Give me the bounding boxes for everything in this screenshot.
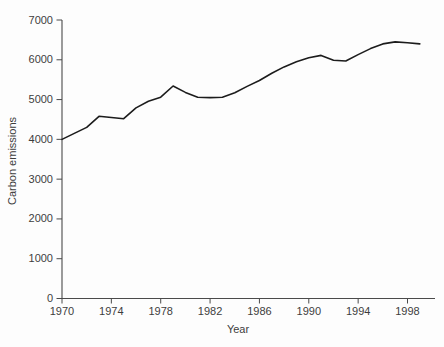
x-axis-ticks: 19701974197819821986199019941998 (50, 299, 420, 318)
axes (62, 20, 435, 299)
y-tick-label: 6000 (29, 53, 53, 65)
x-tick-label: 1998 (395, 305, 419, 317)
x-tick-label: 1994 (346, 305, 370, 317)
y-tick-label: 4000 (29, 133, 53, 145)
x-axis-title: Year (227, 323, 250, 335)
y-axis-ticks: 01000200030004000500060007000 (29, 14, 62, 305)
y-tick-label: 7000 (29, 14, 53, 26)
x-tick-label: 1990 (297, 305, 321, 317)
carbon-emissions-chart: 01000200030004000500060007000 1970197419… (0, 0, 444, 347)
y-tick-label: 3000 (29, 173, 53, 185)
x-tick-label: 1986 (247, 305, 271, 317)
chart-canvas: 01000200030004000500060007000 1970197419… (0, 0, 444, 347)
y-tick-label: 1000 (29, 252, 53, 264)
emissions-data-line (62, 42, 420, 139)
x-tick-label: 1974 (99, 305, 123, 317)
x-tick-label: 1978 (148, 305, 172, 317)
y-tick-label: 0 (47, 292, 53, 304)
y-tick-label: 5000 (29, 93, 53, 105)
y-tick-label: 2000 (29, 212, 53, 224)
x-tick-label: 1982 (198, 305, 222, 317)
x-tick-label: 1970 (50, 305, 74, 317)
y-axis-title: Carbon emissions (6, 116, 18, 205)
